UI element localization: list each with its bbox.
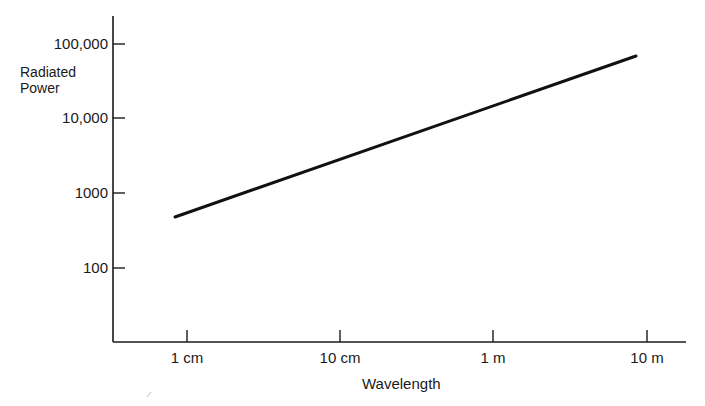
x-ticks [187, 330, 647, 342]
y-ticks [113, 44, 125, 268]
x-tick-label-1m: 1 m [453, 350, 533, 365]
y-tick-label-10000: 10,000 [8, 110, 108, 125]
stray-mark [147, 392, 151, 397]
y-axis-title: Radiated Power [20, 64, 76, 96]
x-tick-label-10cm: 10 cm [300, 350, 380, 365]
y-axis-title-line1: Radiated [20, 64, 76, 80]
y-tick-label-100: 100 [8, 260, 108, 275]
y-axis-title-line2: Power [20, 80, 76, 96]
y-tick-label-1000: 1000 [8, 185, 108, 200]
x-axis-title: Wavelength [362, 375, 441, 392]
x-tick-label-10m: 10 m [607, 350, 687, 365]
chart-canvas [0, 0, 705, 406]
x-tick-label-1cm: 1 cm [147, 350, 227, 365]
data-line [175, 56, 636, 217]
y-tick-label-100000: 100,000 [8, 36, 108, 51]
